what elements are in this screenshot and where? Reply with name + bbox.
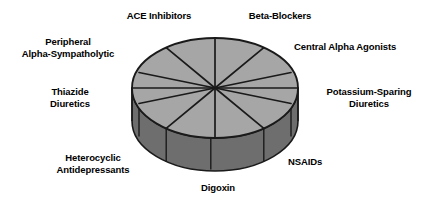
slice-label-digoxin: Digoxin xyxy=(174,182,262,194)
slice-label-potassium-sparing-diuretics: Potassium-Sparing Diuretics xyxy=(306,86,432,109)
slice-label-heterocyclic-antidepressants: Heterocyclic Antidepressants xyxy=(28,152,158,175)
slice-label-nsaids: NSAIDs xyxy=(288,156,374,168)
pie-chart-figure: ACE Inhibitors Beta-Blockers Peripheral … xyxy=(0,0,432,205)
slice-label-ace-inhibitors: ACE Inhibitors xyxy=(104,10,214,22)
slice-label-central-alpha-agonists: Central Alpha Agonists xyxy=(294,41,430,53)
slice-label-thiazide-diuretics: Thiazide Diuretics xyxy=(18,86,122,109)
slice-label-peripheral-alpha-sympatholytic: Peripheral Alpha-Sympatholytic xyxy=(6,36,130,59)
slice-label-beta-blockers: Beta-Blockers xyxy=(224,10,336,22)
